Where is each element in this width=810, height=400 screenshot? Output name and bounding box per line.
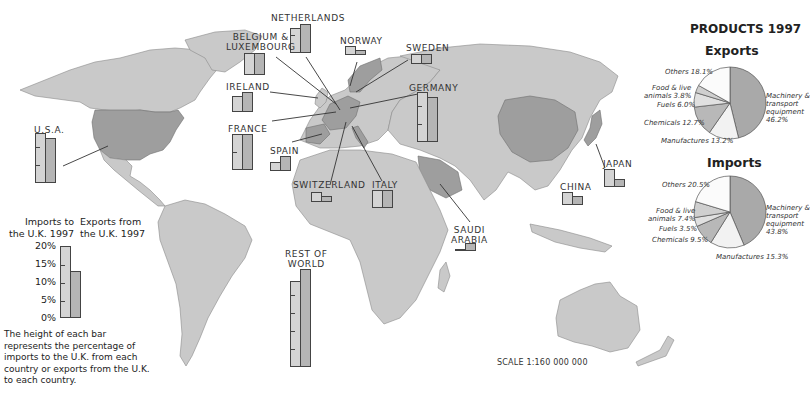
label-norway: NORWAY (340, 36, 383, 46)
legend-exports-line1: Exports from (80, 216, 141, 227)
label-rest-of-world: REST OFWORLD (285, 249, 327, 269)
label-saudi-line1: SAUDI (454, 225, 485, 235)
products-panel: PRODUCTS 1997 Exports Others 18.1% Food … (612, 0, 803, 400)
label-ireland: IRELAND (226, 82, 270, 92)
legend-tick-10: 10% (30, 277, 56, 287)
imports-label-machinery-line2: transport (766, 212, 798, 220)
imports-label-fuels: Fuels 3.5% (659, 225, 697, 233)
exports-pie-chart (692, 65, 768, 141)
label-italy: ITALY (372, 180, 398, 190)
bars-china (562, 192, 583, 205)
legend-exports-line2: the U.K. 1997 (80, 228, 145, 239)
exports-label-machinery-line1: Machinery & (766, 92, 810, 100)
label-switzerland: SWITZERLAND (293, 180, 366, 190)
bars-rest-of-world (290, 269, 311, 367)
bars-sweden (411, 54, 432, 64)
exports-label-machinery-line4: 46.2% (766, 116, 788, 124)
label-belgium-line2: LUXEMBOURG (226, 42, 296, 52)
exports-label-food-line2: animals 3.8% (644, 92, 691, 100)
legend-imports-line2: the U.K. 1997 (9, 228, 74, 239)
label-belgium-luxembourg: BELGIUM &LUXEMBOURG (226, 32, 296, 52)
bars-norway (345, 46, 366, 55)
exports-bar-switzerland (321, 196, 332, 202)
products-title: PRODUCTS 1997 (690, 22, 801, 36)
legend-tick-0: 0% (30, 313, 56, 323)
exports-label-machinery-line2: transport (766, 100, 798, 108)
imports-label-food-line2: animals 7.4% (648, 215, 695, 223)
bars-saudi-arabia (455, 243, 476, 251)
legend-tick-5: 5% (30, 295, 56, 305)
legend-imports-heading: Imports tothe U.K. 1997 (9, 216, 74, 240)
exports-bar-spain (280, 156, 291, 171)
label-saudi-arabia: SAUDIARABIA (451, 225, 488, 245)
label-row-line2: WORLD (288, 259, 325, 269)
bars-italy (372, 190, 393, 208)
imports-label-manufactures: Manufactures 15.3% (716, 253, 788, 261)
exports-bar-netherlands (300, 24, 311, 53)
label-row-line1: REST OF (285, 249, 327, 259)
exports-label-manufactures: Manufactures 13.2% (661, 137, 733, 145)
legend-sample-bars (60, 246, 81, 318)
exports-bar-saudi-arabia (465, 243, 476, 251)
imports-label-machinery-line1: Machinery & (766, 204, 810, 212)
exports-bar-france (242, 134, 253, 170)
imports-label-others: Others 20.5% (662, 181, 710, 189)
label-china: CHINA (560, 182, 592, 192)
legend-tick-15: 15% (30, 259, 56, 269)
label-netherlands: NETHERLANDS (271, 13, 345, 23)
exports-bar-rest-of-world (300, 269, 311, 367)
legend-exports-bar (70, 271, 81, 318)
label-sweden: SWEDEN (406, 43, 449, 53)
exports-bar-usa (45, 138, 56, 183)
bar-legend: Imports tothe U.K. 1997 Exports fromthe … (0, 230, 170, 400)
imports-pie-title: Imports (707, 155, 762, 170)
exports-label-fuels: Fuels 6.0% (657, 101, 695, 109)
imports-label-machinery: Machinery &transportequipment43.8% (766, 204, 810, 236)
country-usa (92, 110, 184, 160)
exports-bar-china (572, 196, 583, 205)
bars-ireland (232, 92, 253, 112)
exports-bar-germany (427, 97, 438, 142)
exports-label-others: Others 18.1% (665, 68, 713, 76)
exports-bar-italy (382, 190, 393, 208)
legend-exports-heading: Exports fromthe U.K. 1997 (80, 216, 145, 240)
imports-label-chemicals: Chemicals 9.5% (652, 236, 708, 244)
bars-switzerland (311, 192, 332, 202)
exports-label-machinery-line3: equipment (766, 108, 804, 116)
map-scale: SCALE 1:160 000 000 (497, 358, 588, 367)
exports-label-machinery: Machinery &transportequipment46.2% (766, 92, 810, 124)
landmass-north-america (20, 48, 220, 112)
exports-bar-ireland (242, 92, 253, 112)
label-spain: SPAIN (270, 146, 299, 156)
imports-label-food: Food & liveanimals 7.4% (648, 207, 695, 223)
exports-label-chemicals: Chemicals 12.7% (644, 119, 705, 127)
label-france: FRANCE (228, 124, 268, 134)
landmass-indonesia (530, 224, 612, 252)
exports-bar-belgium (254, 53, 265, 75)
imports-label-food-line1: Food & live (656, 207, 695, 215)
bars-germany (417, 92, 438, 142)
landmass-madagascar (438, 262, 450, 292)
exports-bar-sweden (421, 54, 432, 64)
bars-usa (35, 133, 56, 183)
legend-imports-line1: Imports to (25, 216, 74, 227)
landmass-south-america (158, 200, 252, 366)
bars-spain (270, 156, 291, 171)
legend-tick-20: 20% (30, 241, 56, 251)
legend-note: The height of each bar represents the pe… (4, 329, 154, 387)
imports-label-machinery-line3: equipment (766, 220, 804, 228)
bars-france (232, 134, 253, 170)
exports-label-food: Food & liveanimals 3.8% (644, 84, 691, 100)
imports-label-machinery-line4: 43.8% (766, 228, 788, 236)
exports-pie-title: Exports (705, 43, 759, 58)
exports-label-food-line1: Food & live (652, 84, 691, 92)
bars-belgium-luxembourg (244, 53, 265, 75)
label-belgium-line1: BELGIUM & (233, 32, 289, 42)
exports-bar-norway (355, 50, 366, 55)
